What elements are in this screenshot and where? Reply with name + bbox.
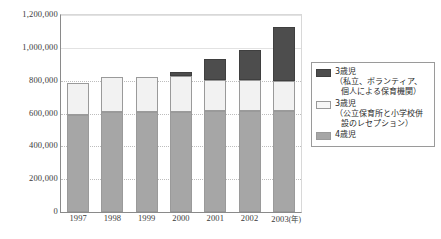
legend-label: 3歳児（公立保育所と小学校併設のレセプション） (335, 99, 423, 130)
legend-swatch-y4 (316, 132, 331, 140)
chart-legend: 3歳児（私立、ボランティア、個人による保育機関）3歳児（公立保育所と小学校併設の… (311, 62, 435, 147)
bar-segment-y3priv[interactable] (273, 27, 295, 81)
y-axis-tick: 1,000,000 (2, 43, 58, 52)
legend-item[interactable]: 3歳児（公立保育所と小学校併設のレセプション） (316, 99, 430, 130)
legend-label-sub2: 設のレセプション） (335, 119, 423, 129)
y-axis-tick-labels: 0200,000400,000600,000800,0001,000,0001,… (0, 14, 58, 211)
bar-segment-y4[interactable] (101, 112, 123, 212)
x-axis-tick: 1997 (69, 213, 86, 223)
gridline (61, 48, 301, 49)
x-axis-tick: 2002 (241, 213, 258, 223)
x-axis-tick: 2000 (172, 213, 189, 223)
bar-segment-y3pub[interactable] (273, 81, 295, 111)
bar-segment-y4[interactable] (273, 111, 295, 212)
x-axis-tick: 1999 (138, 213, 155, 223)
bar-segment-y4[interactable] (67, 115, 89, 212)
gridline (61, 15, 301, 16)
chart-figure: 0200,000400,000600,000800,0001,000,0001,… (0, 0, 441, 239)
legend-item[interactable]: 4歳児 (316, 130, 430, 140)
y-axis-tick: 0 (2, 207, 58, 216)
x-axis-unit-label: (年) (289, 215, 301, 224)
legend-label-main: 3歳児 (335, 99, 423, 109)
bar-segment-y3pub[interactable] (101, 77, 123, 112)
legend-swatch-y3priv (316, 69, 331, 77)
legend-label: 4歳児 (335, 130, 356, 140)
legend-item[interactable]: 3歳児（私立、ボランティア、個人による保育機関） (316, 67, 430, 98)
y-axis-tick: 400,000 (2, 141, 58, 150)
x-axis-tick-labels: 1997199819992000200120022003(年) (60, 213, 302, 227)
legend-label-main: 3歳児 (335, 67, 422, 77)
legend-label-sub2: 個人による保育機関） (335, 87, 422, 97)
legend-swatch-y3pub (316, 101, 331, 109)
bar-segment-y3pub[interactable] (67, 83, 89, 115)
y-axis-tick: 800,000 (2, 75, 58, 84)
bar-segment-y3pub[interactable] (170, 76, 192, 111)
y-axis-tick: 1,200,000 (2, 10, 58, 19)
x-axis-tick: 2003(年) (271, 213, 301, 224)
bar-segment-y3pub[interactable] (204, 80, 226, 112)
bar-segment-y4[interactable] (204, 111, 226, 212)
legend-label-sub: （私立、ボランティア、 (335, 77, 422, 87)
bar-segment-y3priv[interactable] (204, 59, 226, 80)
bar-segment-y4[interactable] (170, 112, 192, 212)
bar-segment-y3pub[interactable] (136, 77, 158, 112)
bottom-caption (8, 231, 308, 239)
x-axis-tick: 1998 (104, 213, 121, 223)
legend-label-main: 4歳児 (335, 130, 356, 140)
bar-segment-y4[interactable] (136, 112, 158, 212)
plot-area (60, 14, 302, 213)
y-axis-tick: 600,000 (2, 108, 58, 117)
legend-label: 3歳児（私立、ボランティア、個人による保育機関） (335, 67, 422, 98)
y-axis-tick: 200,000 (2, 174, 58, 183)
bar-segment-y3priv[interactable] (170, 72, 192, 76)
bar-segment-y3priv[interactable] (239, 50, 261, 79)
x-axis-tick: 2001 (207, 213, 224, 223)
legend-label-sub: （公立保育所と小学校併 (335, 109, 423, 119)
bar-segment-y4[interactable] (239, 111, 261, 212)
bar-segment-y3pub[interactable] (239, 80, 261, 111)
